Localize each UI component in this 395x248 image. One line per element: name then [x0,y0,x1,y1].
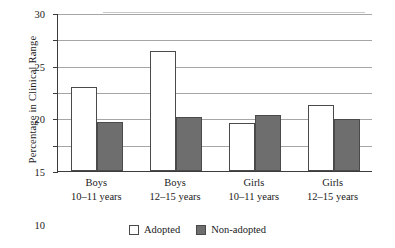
bar-adopted-girls-12-15-years [308,105,334,171]
x-label-line-2: 12–15 years [293,190,372,204]
x-label-line-2: 10–11 years [215,190,294,204]
legend-label: Adopted [144,224,180,235]
x-label-line-2: 12–15 years [136,190,215,204]
x-label-line-1: Boys [57,176,136,190]
white-square-icon [129,225,139,235]
legend-item-adopted[interactable]: Adopted [129,224,180,235]
bar-chart-figure: Percentage in Clinical Range 05101520253… [0,0,395,248]
bar-adopted-boys-12-15-years [150,51,176,171]
x-axis-category-label: Boys12–15 years [136,176,215,203]
y-axis-tick-label: 25 [35,61,46,72]
x-axis-category-label: Girls10–11 years [215,176,294,203]
x-label-line-2: 10–11 years [57,190,136,204]
bar-non-adopted-girls-10-11-years [255,115,281,171]
x-axis-category-label: Boys10–11 years [57,176,136,203]
x-label-line-1: Boys [136,176,215,190]
legend-item-non-adopted[interactable]: Non-adopted [196,224,266,235]
x-axis-labels-group: Boys10–11 yearsBoys12–15 yearsGirls10–11… [57,176,372,206]
bar-adopted-boys-10-11-years [71,87,97,171]
x-axis-category-label: Girls12–15 years [293,176,372,203]
bars-group [58,14,372,171]
x-label-line-1: Girls [215,176,294,190]
y-axis-tick-label: 15 [35,167,46,178]
chart-legend: AdoptedNon-adopted [0,224,395,235]
x-label-line-1: Girls [293,176,372,190]
bar-non-adopted-girls-12-15-years [334,119,360,171]
y-axis-tick-label: 20 [35,114,46,125]
page-rule-artifact [103,12,365,13]
bar-non-adopted-boys-12-15-years [176,117,202,171]
y-axis-tick: 0 [53,172,58,173]
plot-area: 051015202530 [57,14,372,172]
y-axis-title: Percentage in Clinical Range [27,10,38,190]
bar-non-adopted-boys-10-11-years [97,122,123,171]
bar-adopted-girls-10-11-years [229,123,255,171]
gray-square-icon [196,225,206,235]
y-axis-tick-label: 30 [35,9,46,20]
legend-label: Non-adopted [211,224,266,235]
